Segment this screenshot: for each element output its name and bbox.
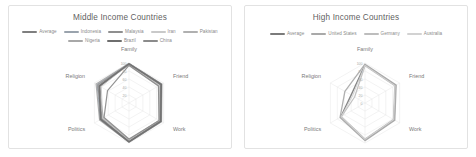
radar-grid — [94, 63, 163, 143]
radar-series-australia[interactable] — [341, 65, 395, 139]
axis-label-friend: Friend — [409, 73, 424, 79]
axis-label-politics: Politics — [304, 126, 321, 132]
radar-plot-area: 10080604020FamilyFriendWorkLeisure TimeP… — [9, 6, 231, 148]
radial-tick-label: 80 — [123, 70, 127, 74]
radar-grid — [330, 63, 399, 143]
chart-panel-middle-income: Middle Income Countries AverageIndonesia… — [0, 0, 238, 157]
radial-tick-label: 40 — [359, 86, 363, 90]
radial-tick-label: 80 — [359, 70, 363, 74]
axis-label-politics: Politics — [68, 126, 85, 132]
axis-label-religion: Religion — [302, 73, 321, 79]
radar-chart-pair: Middle Income Countries AverageIndonesia… — [0, 0, 476, 157]
radial-tick-label: 20 — [123, 94, 127, 98]
radial-tick-label: 100 — [121, 62, 127, 66]
radial-tick-label: 0 — [361, 102, 363, 106]
radar-plot-area: 100806040200FamilyFriendWorkLeisure Time… — [245, 6, 467, 148]
chart-panel-high-income: High Income Countries AverageUnited Stat… — [238, 0, 476, 157]
radial-tick-label: 40 — [123, 86, 127, 90]
axis-label-family: Family — [121, 46, 137, 52]
chart-frame: Middle Income Countries AverageIndonesia… — [8, 5, 232, 149]
axis-label-family: Family — [357, 46, 373, 52]
radial-tick-label: 60 — [123, 78, 127, 82]
axis-label-work: Work — [173, 126, 186, 132]
axis-label-religion: Religion — [66, 73, 85, 79]
radial-tick-label: 20 — [359, 94, 363, 98]
radar-series-group — [340, 64, 396, 140]
axis-label-friend: Friend — [173, 73, 188, 79]
chart-frame: High Income Countries AverageUnited Stat… — [244, 5, 468, 149]
radial-tick-label: 60 — [359, 78, 363, 82]
axis-label-work: Work — [409, 126, 422, 132]
radial-tick-label: 100 — [357, 62, 363, 66]
radar-series-brazil[interactable] — [99, 64, 161, 142]
